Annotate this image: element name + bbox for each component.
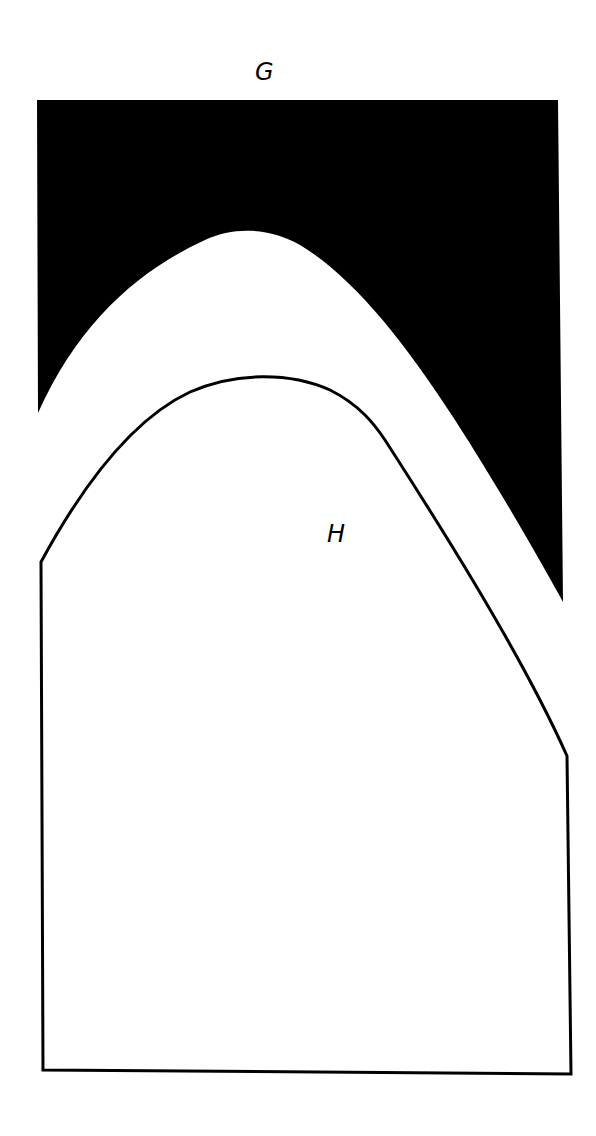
region-h-outline-shape [41,377,571,1074]
region-g-black-shape [37,100,563,602]
label-h: H [327,522,345,546]
label-g: G [255,60,274,84]
diagram-canvas [0,0,596,1136]
